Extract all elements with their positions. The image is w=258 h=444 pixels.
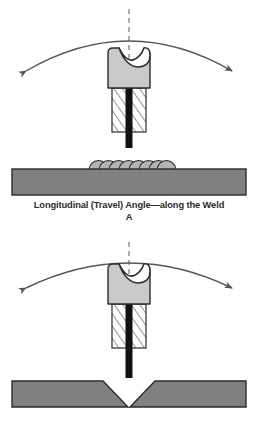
electrode-holder-a — [108, 48, 150, 88]
collet-a — [112, 88, 146, 132]
caption-a-letter: A — [0, 212, 258, 222]
panel-b-illustration — [0, 240, 258, 412]
collet-b — [112, 304, 146, 348]
panel-a-illustration — [0, 0, 258, 200]
v-groove-right-plate — [130, 381, 246, 407]
caption-a: Longitudinal (Travel) Angle—along the We… — [0, 200, 258, 222]
panel-transverse-angle: Transverse (Work) Angle—across the Weld … — [0, 240, 258, 444]
base-plate-a — [12, 169, 246, 195]
v-groove-joint-b — [12, 381, 246, 407]
panel-longitudinal-angle: Longitudinal (Travel) Angle—along the We… — [0, 0, 258, 222]
welding-angle-figure: Longitudinal (Travel) Angle—along the We… — [0, 0, 258, 444]
v-groove-left-plate — [12, 381, 128, 407]
caption-a-title: Longitudinal (Travel) Angle—along the We… — [0, 200, 258, 210]
